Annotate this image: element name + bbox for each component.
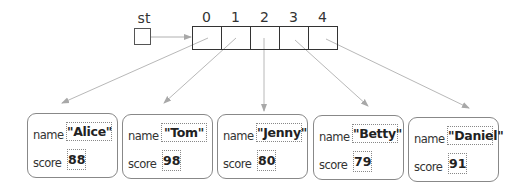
arrow-index-4: [326, 39, 469, 108]
score-field-value: 80: [257, 150, 276, 171]
array-cell-1: [222, 27, 251, 49]
array-cell-3: [280, 27, 309, 49]
name-field-label: name: [33, 128, 64, 142]
score-field-label: score: [128, 157, 156, 171]
score-field-value: 88: [67, 149, 86, 170]
score-field-label: score: [33, 156, 61, 170]
array-cell-4: [309, 27, 337, 49]
name-field-value: "Jenny": [256, 123, 302, 142]
array-index-0: 0: [192, 9, 221, 25]
array-of-references-diagram: st 0 1 2 3 4 name "Alice" score 88 name …: [0, 0, 528, 194]
array-index-4: 4: [308, 9, 337, 25]
name-field-label: name: [414, 132, 445, 146]
pointer-label: st: [133, 10, 155, 26]
name-field-label: name: [223, 129, 254, 143]
score-field-label: score: [414, 160, 442, 174]
score-field-value: 79: [353, 151, 372, 172]
score-field-label: score: [223, 157, 251, 171]
arrow-index-0: [62, 38, 208, 103]
record-object-2: name "Jenny" score 80: [217, 114, 308, 179]
array-index-2: 2: [250, 9, 279, 25]
name-field-label: name: [128, 129, 159, 143]
array-cell-2: [251, 27, 280, 49]
name-field-label: name: [319, 130, 350, 144]
name-field-value: "Tom": [161, 123, 207, 142]
name-field-value: "Betty": [352, 124, 398, 143]
pointer-variable-box: [134, 28, 151, 45]
record-object-4: name "Daniel" score 91: [408, 117, 499, 182]
name-field-value: "Daniel": [447, 126, 493, 145]
record-object-1: name "Tom" score 98: [122, 114, 213, 179]
array-cell-0: [193, 27, 222, 49]
name-field-value: "Alice": [66, 122, 112, 141]
record-object-0: name "Alice" score 88: [27, 113, 118, 178]
record-object-3: name "Betty" score 79: [313, 115, 404, 180]
array-index-3: 3: [279, 9, 308, 25]
array-index-1: 1: [221, 9, 250, 25]
score-field-value: 98: [162, 150, 181, 171]
score-field-label: score: [319, 158, 347, 172]
reference-array: [192, 26, 338, 50]
score-field-value: 91: [448, 153, 467, 174]
